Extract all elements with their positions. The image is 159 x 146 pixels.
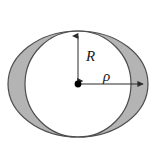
- figure-container: R ρ: [0, 0, 159, 146]
- shaded-lune-region: [0, 0, 159, 146]
- geometry-diagram: R ρ: [0, 0, 159, 146]
- semi-axis-label: ρ: [102, 68, 110, 84]
- radius-label: R: [85, 48, 95, 64]
- center-dot: [75, 81, 82, 88]
